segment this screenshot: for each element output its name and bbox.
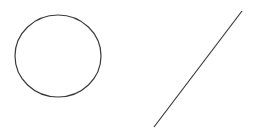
line-shape[interactable] [154,11,242,127]
shapes-layer [0,0,253,132]
drawing-canvas [0,0,253,132]
circle-shape[interactable] [15,15,101,97]
